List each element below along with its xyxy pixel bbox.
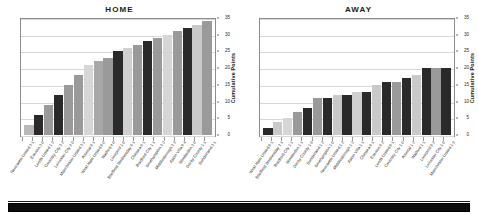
figure-canvas: HOME 35302520151050 Cumulative Points Ne… <box>0 0 478 214</box>
match-score: 1-1 <box>150 141 156 148</box>
bar <box>24 125 33 135</box>
bar <box>333 95 342 135</box>
chart-title-home: HOME <box>0 5 239 14</box>
match-score: 1-2 <box>318 141 324 148</box>
bar <box>402 78 411 135</box>
bar <box>372 85 381 135</box>
bar <box>323 98 332 135</box>
bar <box>392 82 401 135</box>
y-tick-mark <box>217 135 219 136</box>
match-score: 4-0 <box>110 141 116 148</box>
bar <box>412 75 421 135</box>
bar <box>313 98 322 135</box>
match-score: 0-1 <box>369 141 375 148</box>
y-tick-mark <box>456 101 458 102</box>
bar-series-home <box>22 20 214 135</box>
match-score: 2-3 <box>170 141 176 148</box>
bar-series-away <box>261 20 453 135</box>
y-tick-mark <box>217 51 219 52</box>
plot-area-away <box>259 18 455 137</box>
match-score: 0-1 <box>140 141 146 148</box>
bar <box>183 28 192 135</box>
match-score: 1-3 <box>450 141 456 148</box>
bar <box>103 58 112 135</box>
match-score: 1-1 <box>200 141 206 148</box>
bar <box>293 112 302 135</box>
match-score: 1-2 <box>49 141 55 148</box>
panel-away: AWAY 35302520151050 Cumulative Points We… <box>239 0 478 214</box>
y-tick-mark <box>456 18 458 19</box>
bar <box>352 92 361 135</box>
match-score: 1-1 <box>359 141 365 148</box>
match-score: 1-0 <box>328 141 334 148</box>
match-score: 1-2 <box>338 141 344 148</box>
match-score: 1-0 <box>120 141 126 148</box>
footer-black-bar <box>8 203 470 212</box>
chart-title-away: AWAY <box>239 5 478 14</box>
bar <box>382 82 391 135</box>
match-score: 1-1 <box>298 141 304 148</box>
bar <box>283 118 292 135</box>
bar <box>273 122 282 135</box>
match-score: 0-2 <box>429 141 435 148</box>
match-score: 1-2 <box>409 141 415 148</box>
y-tick-mark <box>456 84 458 85</box>
bar <box>64 85 73 135</box>
y-tick-mark <box>217 118 219 119</box>
y-tick-mark <box>456 135 458 136</box>
bar <box>441 68 450 135</box>
match-score: 1-1 <box>419 141 425 148</box>
bar <box>163 35 172 135</box>
bar <box>362 92 371 135</box>
bar <box>94 61 103 135</box>
match-score: 0-1 <box>130 141 136 148</box>
y-tick-mark <box>456 118 458 119</box>
match-score: 2-2 <box>160 141 166 148</box>
match-score: 2-1 <box>278 141 284 148</box>
bar <box>422 68 431 135</box>
bar <box>342 95 351 135</box>
match-score: 1-2 <box>349 141 355 148</box>
y-axis-title-away: Cumulative Points <box>467 18 477 137</box>
y-tick-mark <box>217 34 219 35</box>
bar <box>34 115 43 135</box>
y-tick-mark <box>456 68 458 69</box>
bar <box>192 25 201 135</box>
y-tick-mark <box>456 34 458 35</box>
bar <box>74 75 83 135</box>
team-name: Newcastle United <box>9 145 31 174</box>
bar <box>431 68 440 135</box>
y-axis-title-text-home: Cumulative Points <box>230 52 236 102</box>
x-axis-labels-away: West Ham United 0-1 Sheffield Wednesday … <box>259 140 455 210</box>
match-score: 2-0 <box>69 141 75 148</box>
y-axis-title-home: Cumulative Points <box>228 18 238 137</box>
x-axis-labels-home: Newcastle United 3-1 Everton 3-0 Leeds U… <box>20 140 216 210</box>
match-score: 2-0 <box>190 141 196 148</box>
bar <box>153 38 162 135</box>
bar <box>263 128 272 135</box>
bar <box>84 65 93 135</box>
y-axis-title-text-away: Cumulative Points <box>469 52 475 102</box>
match-score: 3-1 <box>29 141 35 148</box>
footer-divider <box>8 201 470 202</box>
bar <box>173 31 182 135</box>
y-tick-mark <box>217 101 219 102</box>
y-tick-mark <box>217 68 219 69</box>
match-score: 1-0 <box>439 141 445 148</box>
match-score: 0-1 <box>268 141 274 148</box>
y-tick-mark <box>217 84 219 85</box>
match-score: 1-0 <box>399 141 405 148</box>
plot-area-home <box>20 18 216 137</box>
match-score: 1-0 <box>308 141 314 148</box>
match-score: 3-1 <box>211 141 217 148</box>
match-score: 3-0 <box>39 141 45 148</box>
bar <box>113 51 122 135</box>
y-tick-mark <box>456 51 458 52</box>
match-score: 3-2 <box>59 141 65 148</box>
y-tick-mark <box>217 18 219 19</box>
bar <box>202 21 211 135</box>
match-score: 0-4 <box>180 141 186 148</box>
match-score: 0-1 <box>89 141 95 148</box>
match-score: 0-1 <box>389 141 395 148</box>
bar <box>303 108 312 135</box>
